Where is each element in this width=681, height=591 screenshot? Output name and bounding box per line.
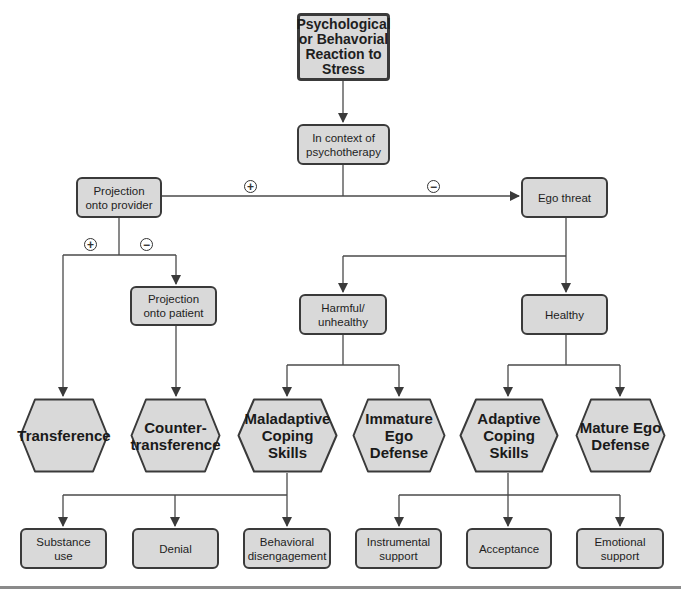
example-behavioral-disengagement: Behavioral disengagement: [243, 528, 331, 569]
footer-divider: [0, 586, 681, 589]
example-acceptance: Acceptance: [466, 528, 552, 569]
example-label: Denial: [159, 542, 192, 556]
projection-provider-node: Projection onto provider: [76, 177, 162, 218]
ego-threat-node: Ego threat: [521, 177, 608, 218]
outcome-label: Transference: [19, 398, 109, 473]
example-substance-use: Substance use: [20, 528, 107, 569]
outcome-label: Immature Ego Defense: [352, 398, 446, 473]
example-instrumental-support: Instrumental support: [355, 528, 442, 569]
healthy-label: Healthy: [545, 308, 584, 322]
projection-patient-label: Projection onto patient: [136, 292, 211, 320]
minus-sign-icon: −: [427, 180, 440, 193]
healthy-node: Healthy: [521, 294, 608, 335]
outcome-label: Adaptive Coping Skills: [459, 398, 559, 473]
root-label: Psychological or Behavorial Reaction to …: [296, 17, 390, 77]
outcome-transference: Transference: [19, 398, 109, 473]
example-label: Emotional support: [582, 535, 658, 563]
minus-sign-icon: −: [140, 238, 153, 251]
example-label: Instrumental support: [361, 535, 436, 563]
outcome-maladaptive-coping: Maladaptive Coping Skills: [237, 398, 338, 473]
example-emotional-support: Emotional support: [576, 528, 664, 569]
outcome-countertransference: Counter- transference: [130, 398, 221, 473]
outcome-label: Maladaptive Coping Skills: [237, 398, 338, 473]
projection-patient-node: Projection onto patient: [130, 286, 217, 326]
outcome-adaptive-coping: Adaptive Coping Skills: [459, 398, 559, 473]
harmful-label: Harmful/ unhealthy: [305, 301, 381, 329]
ego-threat-label: Ego threat: [538, 191, 591, 205]
outcome-mature-ego-defense: Mature Ego Defense: [575, 398, 666, 473]
example-label: Behavioral disengagement: [248, 535, 327, 563]
plus-sign-icon: +: [244, 180, 257, 193]
outcome-label: Counter- transference: [130, 398, 221, 473]
harmful-node: Harmful/ unhealthy: [299, 294, 387, 335]
context-label: In context of psychotherapy: [303, 131, 384, 159]
example-denial: Denial: [132, 528, 219, 569]
root-node: Psychological or Behavorial Reaction to …: [297, 13, 390, 81]
plus-sign-icon: +: [84, 238, 97, 251]
outcome-label: Mature Ego Defense: [575, 398, 666, 473]
projection-provider-label: Projection onto provider: [82, 184, 156, 212]
example-label: Substance use: [26, 535, 101, 563]
example-label: Acceptance: [479, 542, 539, 556]
outcome-immature-ego-defense: Immature Ego Defense: [352, 398, 446, 473]
context-node: In context of psychotherapy: [297, 124, 390, 165]
